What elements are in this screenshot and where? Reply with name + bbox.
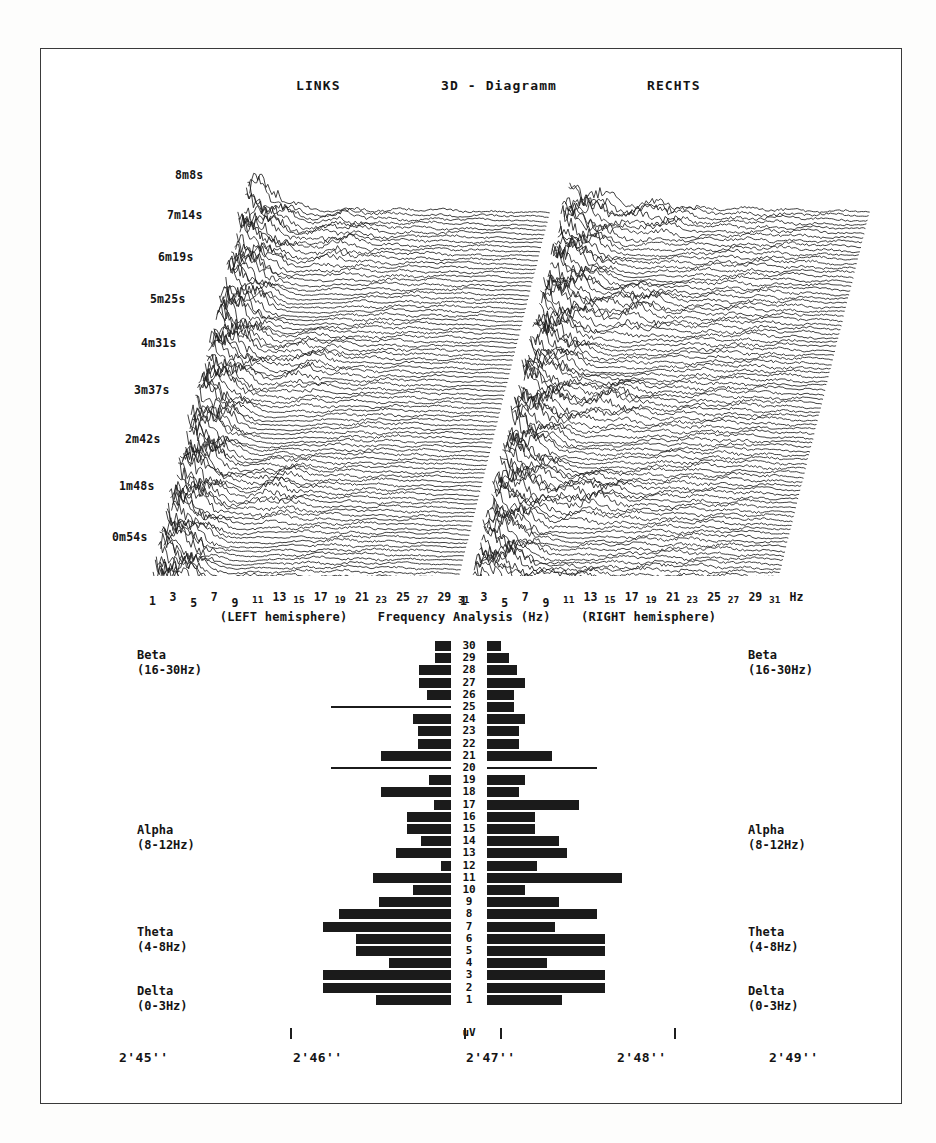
bar-row-label: 12 [451,859,487,872]
band-name: Beta [748,648,777,662]
bar-right [487,824,535,834]
bar-row-label: 8 [451,907,487,920]
frequency-tick-left: 29 [437,590,451,604]
bar-row-label: 6 [451,932,487,945]
bar-left [419,678,451,688]
waterfall-time-label: 6m19s [158,250,194,264]
bar-row-label: 29 [451,651,487,664]
bar-right [487,873,622,883]
bar-cell-right [487,945,936,957]
bar-row: 27 [0,677,936,689]
bar-right [487,678,525,688]
bar-cell-left [0,860,451,872]
bar-cell-right [487,652,936,664]
bar-row-label: 3 [451,968,487,981]
bar-right [487,970,605,980]
bar-cell-right [487,908,936,920]
bar-left [323,983,451,993]
bar-row-label: 11 [451,871,487,884]
bar-cell-right [487,921,936,933]
bar-cell-right [487,957,936,969]
bar-right [487,958,547,968]
bar-row-label: 15 [451,822,487,835]
bar-row: 4 [0,957,936,969]
bar-row-label: 1 [451,993,487,1006]
bar-right [487,800,579,810]
bar-cell-left [0,835,451,847]
frequency-tick-right: 5 [501,596,508,610]
frequency-tick-right: 7 [522,590,529,604]
frequency-tick-right: 17 [625,590,639,604]
band-label-theta-left: Theta (4-8Hz) [137,925,188,955]
bar-right [487,836,559,846]
frequency-tick-left: 27 [417,594,428,605]
frequency-tick-right: 1 [460,594,467,608]
band-label-alpha-right: Alpha (8-12Hz) [748,823,806,853]
frequency-unit-label: Hz [790,590,804,604]
frequency-tick-right: 31 [769,594,780,605]
bar-row-label: 21 [451,749,487,762]
frequency-tick-left: 11 [252,594,263,605]
bar-left [441,861,451,871]
waterfall-time-label: 3m37s [134,383,170,397]
bar-cell-left [0,982,451,994]
bar-cell-left [0,786,451,798]
bar-left [379,897,451,907]
bar-cell-right [487,872,936,884]
band-name: Alpha [137,823,173,837]
frequency-tick-left: 21 [355,590,369,604]
bar-cell-right [487,896,936,908]
bar-cell-left [0,799,451,811]
bar-cell-right [487,640,936,652]
frequency-tick-right: 15 [604,594,615,605]
bar-row: 11 [0,872,936,884]
frequency-tick-right: 27 [728,594,739,605]
bar-row: 25 [0,701,936,713]
bar-row-label: 28 [451,663,487,676]
frequency-tick-left: 15 [293,594,304,605]
bar-row: 20 [0,762,936,774]
frequency-tick-left: 1 [149,594,156,608]
bar-right [487,983,605,993]
frequency-tick-right: 25 [707,590,721,604]
band-range: (4-8Hz) [137,940,188,955]
bar-row: 23 [0,725,936,737]
frequency-tick-left: 23 [376,594,387,605]
bar-row-label: 27 [451,676,487,689]
bar-left [429,775,451,785]
bar-left [396,848,451,858]
time-axis-label: 2'45'' [119,1050,168,1065]
bar-left [339,909,451,919]
frequency-tick-right: 29 [748,590,762,604]
bar-cell-right [487,786,936,798]
band-label-theta-right: Theta (4-8Hz) [748,925,799,955]
bar-cell-left [0,713,451,725]
bar-cell-right [487,994,936,1006]
waterfall-right-label: RECHTS [647,78,701,93]
bar-row-label: 18 [451,785,487,798]
bar-cell-right [487,664,936,676]
bar-right [487,897,559,907]
band-label-delta-left: Delta (0-3Hz) [137,984,188,1014]
bar-left [381,787,451,797]
band-range: (8-12Hz) [748,838,806,853]
bar-cell-left [0,994,451,1006]
bar-left [331,706,451,708]
bar-row-label: 23 [451,724,487,737]
frequency-tick-right: 23 [687,594,698,605]
bar-left [389,958,451,968]
waterfall-left-label: LINKS [296,78,341,93]
frequency-tick-right: 13 [584,590,598,604]
bar-row-label: 16 [451,810,487,823]
band-label-delta-right: Delta (0-3Hz) [748,984,799,1014]
bar-cell-left [0,725,451,737]
bar-cell-right [487,725,936,737]
bar-cell-left [0,823,451,835]
waterfall-time-label: 8m8s [175,168,204,182]
bar-left [434,800,451,810]
band-range: (0-3Hz) [137,999,188,1014]
bar-right [487,641,501,651]
time-axis-label: 2'48'' [617,1050,666,1065]
bar-row-label: 10 [451,883,487,896]
bar-row: 16 [0,811,936,823]
